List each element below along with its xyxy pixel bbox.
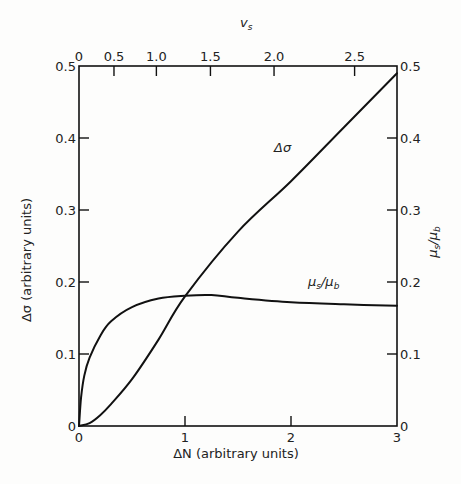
y-tick-label: 0.3	[55, 203, 76, 218]
y2-axis-title: μs/μb	[425, 226, 442, 259]
x2-tick-label: 2.5	[344, 49, 365, 64]
tick-labels: 012300.10.20.30.40.500.10.20.30.40.500.5…	[55, 49, 420, 445]
x2-tick-label: 0.5	[104, 49, 125, 64]
curves	[79, 73, 397, 426]
x2-tick-label: 0	[75, 49, 83, 64]
y-tick-label: 0	[68, 419, 76, 434]
mu-ratio-curve	[79, 295, 397, 426]
top-axis-title: vs	[240, 15, 253, 32]
x-axis-title: ΔN (arbitrary units)	[173, 446, 299, 461]
x-tick-label: 0	[75, 430, 83, 445]
x2-tick-label: 1.5	[200, 49, 221, 64]
delta-sigma-label: Δσ	[273, 140, 292, 155]
plot-frame	[79, 66, 397, 426]
x2-tick-label: 2.0	[264, 49, 285, 64]
x-tick-label: 2	[287, 430, 295, 445]
x2-tick-label: 1.0	[146, 49, 167, 64]
y2-tick-label: 0.2	[400, 275, 421, 290]
y2-tick-label: 0	[400, 419, 408, 434]
x-tick-label: 1	[181, 430, 189, 445]
mu-ratio-label: μs/μb	[307, 274, 340, 291]
y-tick-label: 0.4	[55, 131, 76, 146]
chart: 012300.10.20.30.40.500.10.20.30.40.500.5…	[0, 0, 461, 484]
y2-tick-label: 0.1	[400, 347, 421, 362]
y-tick-label: 0.1	[55, 347, 76, 362]
y2-tick-label: 0.3	[400, 203, 421, 218]
y2-tick-label: 0.5	[400, 59, 421, 74]
y-axis-title: Δσ (arbitrary units)	[19, 198, 34, 322]
y-tick-label: 0.5	[55, 59, 76, 74]
y2-tick-label: 0.4	[400, 131, 421, 146]
axis-ticks	[79, 66, 397, 426]
delta-sigma-curve	[79, 73, 397, 426]
y-tick-label: 0.2	[55, 275, 76, 290]
